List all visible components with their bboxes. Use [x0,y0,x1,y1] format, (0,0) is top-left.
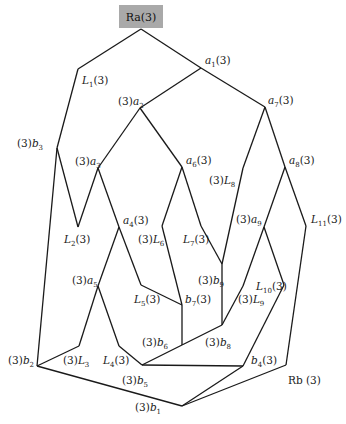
edge-l11-rb [286,226,306,365]
node-label-l2: L2(3) [63,233,90,248]
edge-a1-a2 [140,68,201,108]
node-label-l3: (3)L3 [63,354,89,369]
edge-a3-a4 [98,168,119,227]
node-label-a4: a4(3) [123,214,149,229]
edge-a1-a7 [201,68,265,107]
edge-l7-b9 [201,226,222,264]
node-label-a2: (3)a2 [118,95,144,110]
node-label-l7: L7(3) [182,233,209,248]
edge-a5-l3 [79,286,98,346]
node-label-b8: (3)b8 [205,336,231,351]
edge-a6-l7 [182,167,201,226]
edge-b6-l4b [142,345,182,365]
node-label-a6: a6(3) [186,154,212,169]
edge-a4-a5 [98,227,119,286]
diagram-labels: a1(3)L1(3)(3)a2a7(3)(3)b3(3)a3a6(3)a8(3)… [8,54,342,416]
edge-l4b-b4 [142,365,243,366]
edge-a9-l10 [264,227,284,285]
node-label-b7: b7(3) [185,293,211,308]
node-label-a9: (3)a9 [236,213,262,228]
root-node-label: Ra(3) [126,11,157,24]
node-label-b2: (3)b2 [8,354,34,369]
edge-b3-b2 [37,148,57,366]
node-label-l9: (3)L9 [238,293,264,308]
edge-a2-a6 [140,108,182,167]
node-label-l4: L4(3) [102,354,129,369]
node-label-a1: a1(3) [205,54,231,69]
diagram-edges [37,29,306,406]
edge-l6-b7 [162,226,182,305]
edge-a6-l6 [162,167,182,226]
edge-a7-a8 [265,107,285,167]
node-label-l6: (3)L6 [138,233,165,248]
node-label-l11: L11(3) [310,213,342,228]
node-label-b3: (3)b3 [17,137,43,152]
edge-l2-a3 [78,168,98,227]
edge-l9-b8 [222,286,243,325]
edge-l1-b3 [57,69,78,148]
node-label-b6: (3)b6 [142,336,169,351]
network-diagram: Ra(3) a1(3)L1(3)(3)a2a7(3)(3)b3(3)a3a6(3… [0,0,346,424]
node-label-b9: (3)b9 [198,274,224,289]
edge-a8-a9 [264,167,285,227]
node-label-a8: a8(3) [289,154,315,169]
node-label-l5: L5(3) [133,293,160,308]
node-label-l8: (3)L8 [209,174,235,189]
edge-a7-l8 [243,107,265,168]
root-node-ra: Ra(3) [119,5,163,28]
node-label-b5: (3)b5 [122,374,148,389]
edge-ra-l1 [78,29,141,69]
node-label-b1: (3)b1 [135,401,161,416]
edge-ra-a1 [141,29,201,68]
node-label-a3: (3)a3 [75,155,101,170]
edge-a8-l11 [285,167,306,226]
edge-a9-l9 [243,227,264,286]
node-label-l1: L1(3) [81,74,108,89]
node-label-rb: Rb (3) [288,374,321,386]
edge-a2-a3 [98,108,140,168]
edge-b2-b1 [37,366,182,406]
edge-a5-l4 [98,286,119,346]
node-label-a5: (3)a5 [72,274,98,289]
node-label-a7: a7(3) [268,94,294,109]
node-label-b4: b4(3) [251,354,277,369]
